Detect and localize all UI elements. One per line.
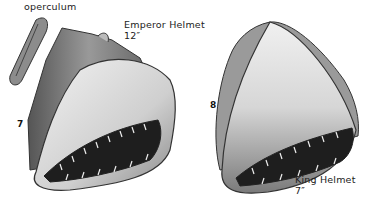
emperor-helmet-name: Emperor Helmet [124,19,205,30]
king-helmet-size: 7″ [295,185,305,196]
operculum-label: operculum [24,1,76,12]
king-helmet-drawing [216,22,359,193]
emperor-helmet-number: 7 [17,119,23,129]
emperor-helmet-drawing [28,28,175,190]
king-helmet-name: King Helmet [295,174,356,185]
king-helmet-number: 8 [210,100,216,110]
emperor-helmet-size: 12″ [124,30,140,41]
